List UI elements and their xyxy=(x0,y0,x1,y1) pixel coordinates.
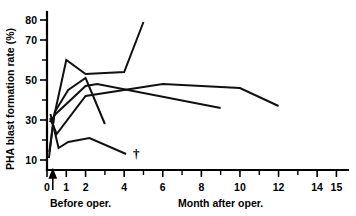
y-tick-label: 80 xyxy=(25,14,37,26)
before-oper-arrow-head xyxy=(50,170,56,178)
x-tick-label: 10 xyxy=(234,181,246,193)
x-tick-label: 2 xyxy=(83,181,89,193)
series-line-patient-3 xyxy=(50,84,221,122)
pha-blast-formation-line-chart: PHA blast formation rate (%) 1030507080 … xyxy=(0,0,356,216)
series-line-patient-5 xyxy=(50,114,126,154)
x-axis-title: Month after oper. xyxy=(178,197,263,209)
axes-group xyxy=(47,12,348,170)
before-oper-arrow xyxy=(50,170,56,190)
before-oper-label: Before oper. xyxy=(50,197,111,209)
y-tick-label: 70 xyxy=(25,34,37,46)
x-tick-label: 14 xyxy=(311,181,323,193)
data-series-group xyxy=(49,22,279,158)
x-tick-label: 1 xyxy=(63,181,69,193)
x-tick-label: 4 xyxy=(121,181,127,193)
y-tick-label: 50 xyxy=(25,74,37,86)
x-tick-label: 15 xyxy=(331,181,343,193)
x-tick-label: 6 xyxy=(160,181,166,193)
y-tick-label: 10 xyxy=(25,154,37,166)
x-tick-label: 0 xyxy=(44,181,50,193)
y-axis-tick-labels: 1030507080 xyxy=(25,14,37,166)
x-tick-label: 8 xyxy=(198,181,204,193)
series-line-patient-4 xyxy=(50,84,278,134)
chart-container: PHA blast formation rate (%) 1030507080 … xyxy=(0,0,356,216)
x-tick-label: 12 xyxy=(273,181,285,193)
x-axis-tick-labels: 01246810121415 xyxy=(44,181,342,193)
y-tick-label: 30 xyxy=(25,114,37,126)
y-axis-title: PHA blast formation rate (%) xyxy=(4,28,16,170)
death-dagger-icon: † xyxy=(133,146,140,161)
